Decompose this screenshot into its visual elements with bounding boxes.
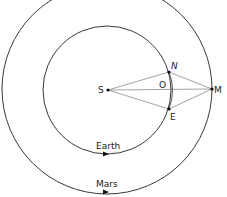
label-e: E (170, 112, 176, 122)
label-s: S (98, 85, 104, 95)
label-o: O (159, 80, 166, 90)
sun-point (106, 88, 109, 91)
label-m: M (214, 85, 222, 95)
label-n: N (171, 61, 178, 71)
orbit-diagram: S N E M O Earth Mars (0, 0, 227, 197)
earth-direction-arrow-icon (103, 152, 109, 157)
label-mars: Mars (96, 179, 118, 189)
mars-orbit (2, 0, 212, 194)
label-earth: Earth (96, 141, 120, 151)
sight-lines (108, 72, 212, 109)
e-point (167, 107, 170, 110)
